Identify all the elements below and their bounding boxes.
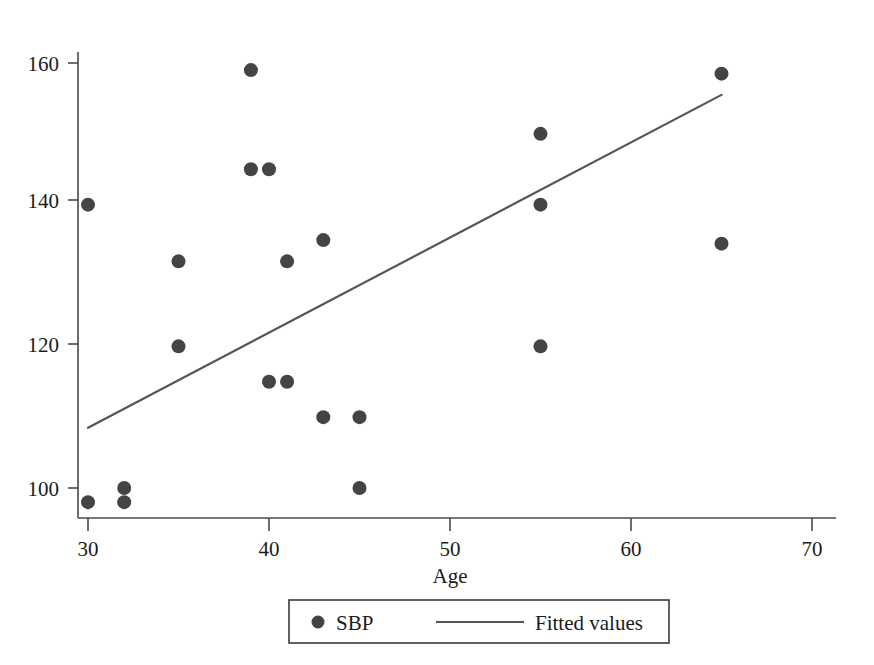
data-point <box>81 495 95 509</box>
y-tick-label-120: 120 <box>28 333 60 357</box>
data-point <box>117 495 131 509</box>
data-point <box>534 127 548 141</box>
data-point <box>534 198 548 212</box>
y-tick-label-160: 160 <box>28 52 60 76</box>
data-point <box>715 67 729 81</box>
legend-label-sbp: SBP <box>336 611 373 635</box>
x-tick-label-70: 70 <box>802 537 823 561</box>
y-axis-ticks: 160 140 120 100 <box>28 52 79 501</box>
y-tick-label-100: 100 <box>28 477 60 501</box>
sbp-scatter-series <box>81 63 729 509</box>
data-point <box>280 375 294 389</box>
y-tick-label-140: 140 <box>28 189 60 213</box>
scatter-plot-figure: 160 140 120 100 30 40 50 60 70 Age <box>0 0 874 665</box>
x-tick-label-50: 50 <box>440 537 461 561</box>
x-axis-ticks: 30 40 50 60 70 <box>78 518 823 561</box>
legend-label-fitted-values: Fitted values <box>535 611 643 635</box>
chart-legend: SBP Fitted values <box>289 600 669 643</box>
data-point <box>316 410 330 424</box>
data-point <box>117 481 131 495</box>
x-tick-label-40: 40 <box>259 537 280 561</box>
data-point <box>353 481 367 495</box>
data-point <box>81 198 95 212</box>
data-point <box>353 410 367 424</box>
data-point <box>244 63 258 77</box>
data-point <box>280 254 294 268</box>
data-point <box>715 237 729 251</box>
data-point <box>244 162 258 176</box>
x-tick-label-30: 30 <box>78 537 99 561</box>
data-point <box>316 233 330 247</box>
x-tick-label-60: 60 <box>621 537 642 561</box>
legend-marker-sbp <box>312 616 325 629</box>
data-point <box>172 339 186 353</box>
data-point <box>262 375 276 389</box>
chart-canvas: 160 140 120 100 30 40 50 60 70 Age <box>0 0 874 665</box>
axes-group <box>78 52 836 518</box>
x-axis-title: Age <box>433 564 468 588</box>
data-point <box>262 162 276 176</box>
data-point <box>172 254 186 268</box>
data-point <box>534 339 548 353</box>
